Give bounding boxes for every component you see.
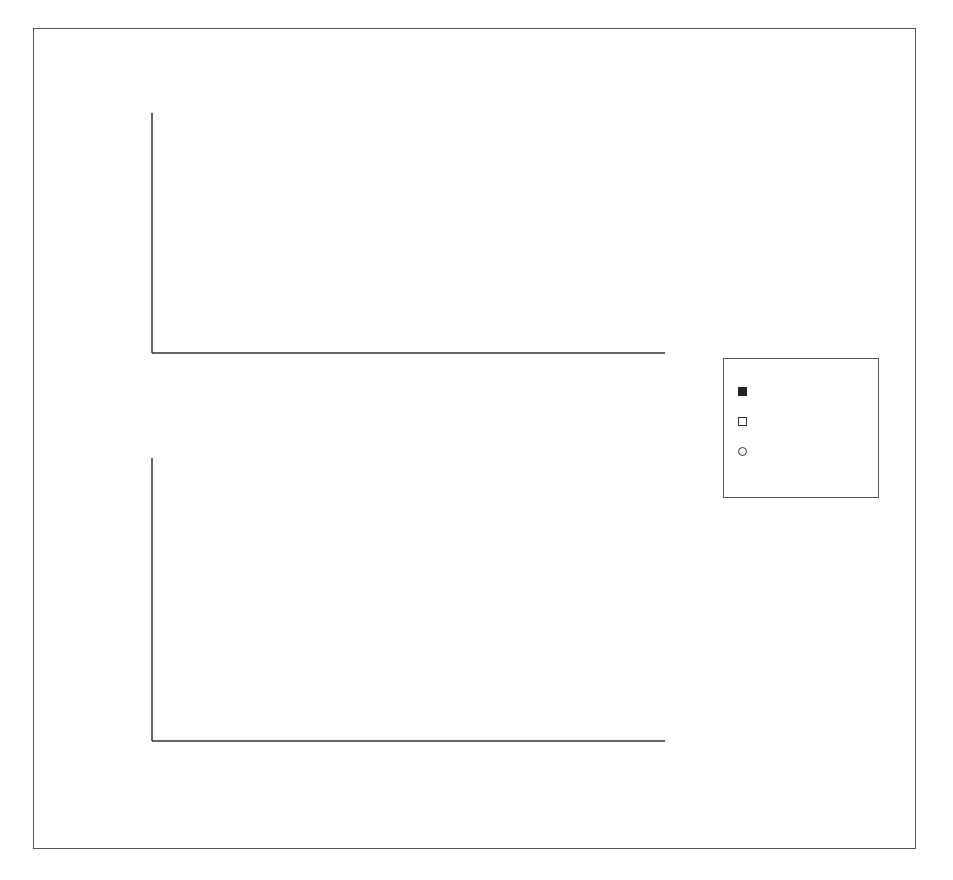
legend-item-late (738, 436, 878, 466)
open-square-icon (738, 417, 747, 426)
open-circle-icon (738, 447, 747, 456)
filled-square-icon (738, 387, 747, 396)
legend (723, 358, 879, 498)
heart-rate-chart (152, 113, 665, 353)
legend-item-middle (738, 406, 878, 436)
lactate-chart (152, 458, 665, 741)
legend-item-early (738, 376, 878, 406)
